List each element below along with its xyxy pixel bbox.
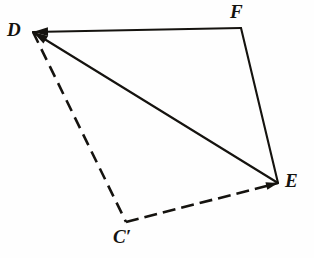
vertex-label-d: D (7, 20, 21, 39)
diagram-canvas (0, 0, 314, 258)
edge-cprime-e (126, 183, 278, 222)
vertex-label-e: E (285, 171, 298, 190)
edge-f-e (241, 28, 278, 183)
arrowhead-at-e-from-cprime (265, 182, 278, 189)
vertex-label-c-prime: C′ (113, 227, 131, 246)
vertex-label-f: F (230, 2, 243, 21)
geometry-figure: D F E C′ (0, 0, 314, 258)
edge-d-f (33, 28, 241, 32)
